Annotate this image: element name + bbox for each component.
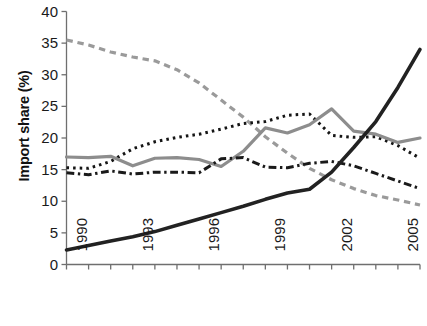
x-axis-tick-label: 1990 [74, 218, 89, 272]
chart-container: Import share (%) 0510152025303540 199019… [0, 0, 427, 326]
x-axis-tick-label: 1996 [206, 218, 221, 272]
x-axis-tick-labels: 199019931996199920022005 [0, 0, 427, 326]
x-axis-tick-label: 1993 [140, 218, 155, 272]
x-axis-tick-label: 2002 [339, 218, 354, 272]
x-axis-tick-label: 2005 [405, 218, 420, 272]
x-axis-tick-label: 1999 [272, 218, 287, 272]
